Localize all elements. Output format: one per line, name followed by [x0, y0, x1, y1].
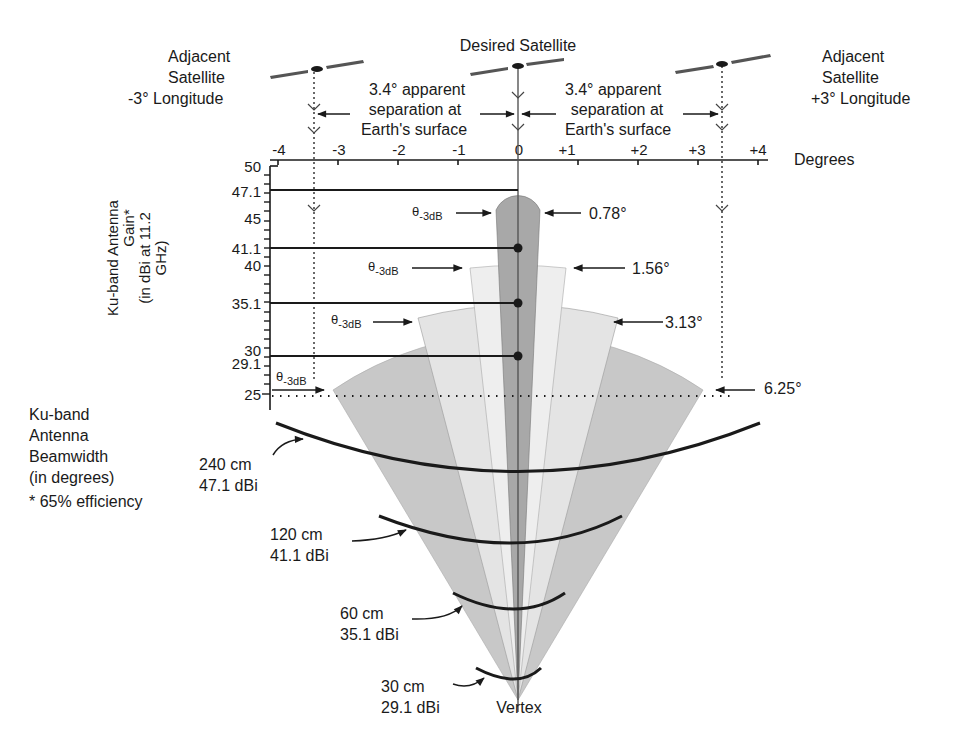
beamwidth-240cm: 0.78°	[589, 205, 627, 222]
svg-text:-3° Longitude: -3° Longitude	[128, 90, 223, 107]
svg-text:+1: +1	[558, 141, 575, 158]
svg-text:+4: +4	[749, 141, 766, 158]
adjacent-right-label: Adjacent Satellite +3° Longitude	[811, 48, 910, 107]
satellite-desired-icon	[470, 58, 564, 76]
svg-text:-2: -2	[392, 141, 405, 158]
svg-text:Gain*: Gain*	[120, 209, 137, 247]
svg-text:-3: -3	[332, 141, 345, 158]
x-axis-tick-labels: -4 -3 -2 -1 0 +1 +2 +3 +4	[272, 141, 766, 158]
svg-text:Ku-band Antenna: Ku-band Antenna	[104, 199, 121, 316]
svg-text:+3° Longitude: +3° Longitude	[811, 90, 910, 107]
svg-text:+2: +2	[630, 141, 647, 158]
svg-text:Satellite: Satellite	[822, 69, 879, 86]
svg-text:Antenna: Antenna	[29, 427, 89, 444]
antenna-120-gain: 41.1 dBi	[270, 547, 329, 564]
y-axis-tick-labels: 50 47.1 45 41.1 40 35.1 30 29.1 25	[232, 158, 261, 403]
svg-text:(in dBi at 11.2: (in dBi at 11.2	[136, 212, 153, 303]
svg-text:-1: -1	[452, 141, 465, 158]
vertex-label: Vertex	[496, 699, 541, 716]
y-tick-40: 40	[244, 257, 261, 274]
y-tick-50: 50	[244, 158, 261, 175]
theta-240: θ-3dB	[412, 204, 442, 222]
satellite-left-icon	[270, 60, 364, 79]
x-axis-label: Degrees	[794, 151, 854, 168]
svg-text:separation at: separation at	[571, 101, 664, 118]
y-tick-41-1: 41.1	[232, 240, 261, 257]
theta-120: θ-3dB	[368, 259, 398, 277]
beamwidth-120cm: 1.56°	[632, 260, 670, 277]
beamwidth-30cm: 6.25°	[764, 380, 802, 397]
svg-text:3.4° apparent: 3.4° apparent	[565, 81, 662, 98]
separation-right-label: 3.4° apparent separation at Earth's surf…	[565, 81, 671, 138]
svg-text:Adjacent: Adjacent	[822, 48, 885, 65]
antenna-120-size: 120 cm	[270, 526, 322, 543]
beamwidth-legend: Ku-band Antenna Beamwidth (in degrees) *…	[29, 406, 143, 510]
antenna-30-gain: 29.1 dBi	[381, 699, 440, 716]
svg-text:separation at: separation at	[369, 101, 462, 118]
antenna-60-gain: 35.1 dBi	[340, 626, 399, 643]
efficiency-footnote: * 65% efficiency	[29, 493, 143, 510]
svg-text:+3: +3	[688, 141, 705, 158]
separation-left-label: 3.4° apparent separation at Earth's surf…	[361, 81, 467, 138]
svg-text:Beamwidth: Beamwidth	[29, 448, 108, 465]
y-tick-25: 25	[244, 386, 261, 403]
antenna-30-size: 30 cm	[381, 678, 425, 695]
svg-text:Ku-band: Ku-band	[29, 406, 90, 423]
antenna-60-size: 60 cm	[340, 605, 384, 622]
svg-text:0: 0	[515, 141, 523, 158]
y-axis-label: Ku-band Antenna Gain* (in dBi at 11.2 GH…	[104, 199, 169, 316]
svg-text:Adjacent: Adjacent	[168, 48, 231, 65]
svg-text:Satellite: Satellite	[168, 69, 225, 86]
y-tick-29-1: 29.1	[232, 355, 261, 372]
svg-text:-4: -4	[272, 141, 285, 158]
desired-satellite-title: Desired Satellite	[460, 37, 577, 54]
svg-text:Earth's surface: Earth's surface	[361, 121, 467, 138]
y-tick-45: 45	[244, 210, 261, 227]
svg-text:3.4° apparent: 3.4° apparent	[369, 81, 466, 98]
adjacent-left-label: Adjacent Satellite -3° Longitude	[128, 48, 231, 107]
antenna-240-gain: 47.1 dBi	[199, 477, 258, 494]
satellite-right-icon	[675, 54, 771, 74]
svg-text:Earth's surface: Earth's surface	[565, 121, 671, 138]
theta-30: θ-3dB	[276, 369, 306, 387]
x-axis	[270, 160, 768, 165]
theta-60: θ-3dB	[331, 312, 361, 330]
svg-text:GHz): GHz)	[152, 241, 169, 276]
antenna-beamwidth-diagram: 50 47.1 45 41.1 40 35.1 30 29.1 25 Ku-ba…	[0, 0, 959, 737]
y-tick-47-1: 47.1	[232, 183, 261, 200]
y-tick-35-1: 35.1	[232, 295, 261, 312]
y-axis-minor-ticks	[262, 175, 270, 394]
svg-text:(in degrees): (in degrees)	[29, 469, 114, 486]
beamwidth-60cm: 3.13°	[665, 314, 703, 331]
antenna-240-size: 240 cm	[199, 456, 251, 473]
